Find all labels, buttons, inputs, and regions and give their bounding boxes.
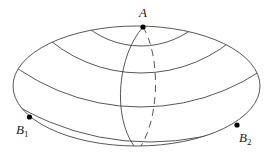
label-b1: B1 [16,123,28,139]
label-b2: B2 [239,131,251,147]
diagram-svg [0,0,272,156]
level-curves [0,0,272,156]
outer-ellipse [13,26,260,146]
point-b1 [27,114,32,119]
point-b2 [234,122,239,127]
label-a: A [139,6,147,19]
ellipse-diagram: A B1 B2 [0,0,272,156]
point-a [140,24,145,29]
solid-meridian [120,27,143,146]
